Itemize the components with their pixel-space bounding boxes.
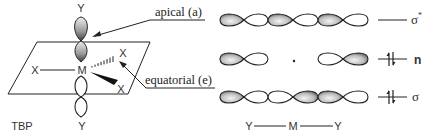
- metal-node-dot: [293, 60, 295, 62]
- orbital-label-n: n: [414, 53, 421, 67]
- axis-center-atom: M: [288, 120, 297, 132]
- equatorial-ligand-front: X: [117, 83, 125, 95]
- lobe-shaded: [220, 14, 244, 26]
- orbital-row-sigma: σ: [220, 89, 419, 104]
- axis-left-ligand: Y: [245, 120, 253, 132]
- apical-callout-label: apical (a): [155, 5, 202, 19]
- lobe-shaded: [220, 53, 244, 65]
- lobe-open: [318, 53, 343, 65]
- lobe-shaded: [268, 14, 293, 26]
- lobe-open: [268, 91, 293, 103]
- apical-ligand-bottom: Y: [78, 120, 86, 132]
- apical-lobe-bottom-inner: [75, 76, 87, 97]
- lobe-shaded: [293, 91, 318, 103]
- lobe-open: [244, 14, 268, 26]
- apical-callout-leader: [95, 20, 205, 36]
- apical-lobe-top-outer: [75, 17, 88, 41]
- tbp-mo-diagram: Y M X X X Y TBP: [0, 0, 430, 138]
- lobe-shaded: [343, 53, 368, 65]
- arrowhead-icon: [92, 31, 101, 37]
- lobe-open: [293, 14, 318, 26]
- orbital-label-sigma-star: σ*: [411, 11, 422, 27]
- orbital-row-n: n: [220, 52, 421, 67]
- lobe-open: [244, 53, 268, 65]
- tbp-structure: Y M X X X Y TBP: [8, 2, 150, 132]
- equatorial-ligand-left: X: [31, 64, 39, 76]
- apical-callout: apical (a): [92, 5, 205, 37]
- central-atom: M: [77, 64, 86, 76]
- orbital-row-sigma-star: σ*: [220, 11, 422, 27]
- apical-lobe-bottom-outer: [75, 97, 87, 117]
- axis-right-ligand: Y: [334, 120, 342, 132]
- equatorial-callout-label: equatorial (e): [145, 73, 212, 87]
- lobe-shaded: [318, 14, 343, 26]
- lobe-shaded: [220, 91, 244, 103]
- geometry-label: TBP: [11, 120, 32, 132]
- lobe-open: [343, 91, 368, 103]
- equatorial-ligand-back: X: [119, 47, 127, 59]
- lobe-open: [343, 14, 368, 26]
- orbital-label-sigma: σ: [412, 89, 419, 104]
- bond-axis-label: Y M Y: [245, 120, 342, 132]
- lobe-shaded: [318, 91, 343, 103]
- apical-ligand-top: Y: [77, 2, 85, 14]
- lobe-open: [244, 91, 268, 103]
